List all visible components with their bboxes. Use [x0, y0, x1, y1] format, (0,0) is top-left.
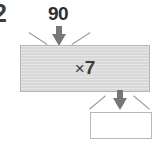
- input-funnel-right-line: [72, 32, 91, 45]
- machine-input-value: 90: [41, 4, 75, 23]
- operation-sign: ×: [75, 59, 85, 78]
- machine-operation: ×7: [21, 58, 149, 77]
- output-funnel-left-line: [89, 95, 106, 109]
- answer-box[interactable]: [90, 112, 152, 139]
- output-funnel-right-line: [133, 95, 150, 109]
- answer-value[interactable]: [91, 113, 151, 138]
- arrow-down-icon-input: [52, 26, 66, 46]
- operation-operand: 7: [85, 57, 96, 78]
- arrow-head: [113, 98, 127, 110]
- input-funnel-left-line: [29, 32, 48, 45]
- arrow-down-icon-output: [113, 90, 127, 110]
- machine-body: ×7: [20, 45, 150, 92]
- question-number: 2: [0, 1, 6, 26]
- function-machine-worksheet: 2 90 ×7: [0, 0, 161, 143]
